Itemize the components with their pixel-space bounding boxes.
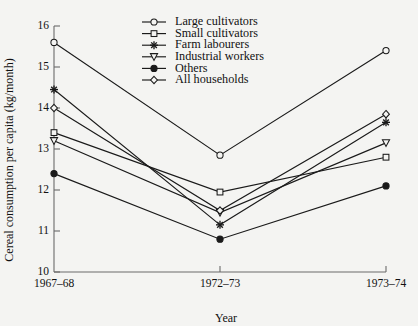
y-tick-label: 15	[38, 60, 50, 72]
data-point-circle-filled	[217, 236, 223, 242]
data-point-square-open	[51, 130, 57, 136]
y-tick-label: 12	[38, 183, 50, 195]
y-tick-label: 11	[38, 224, 49, 236]
cereal-consumption-line-chart: 10111213141516 1967–681972–731973–74 Cer…	[0, 0, 418, 326]
chart-canvas: 10111213141516 1967–681972–731973–74 Cer…	[0, 0, 418, 326]
data-point-star	[50, 86, 58, 94]
y-axis-title: Cereal consumption per capita (kg/month)	[2, 58, 16, 261]
legend-label: All households	[175, 72, 249, 86]
data-point-circle-filled	[151, 65, 157, 71]
data-point-circle-open	[217, 152, 223, 158]
y-tick-label: 10	[38, 265, 50, 277]
data-point-star	[150, 41, 158, 49]
data-point-square-open	[383, 154, 389, 160]
x-tick-label: 1973–74	[366, 277, 407, 289]
y-tick-label: 13	[38, 142, 50, 154]
data-point-circle-open	[51, 39, 57, 45]
y-tick-label: 14	[38, 101, 50, 113]
data-point-circle-filled	[51, 171, 57, 177]
x-tick-label: 1972–73	[200, 277, 241, 289]
data-point-circle-open	[151, 19, 157, 25]
x-tick-label: 1967–68	[34, 277, 75, 289]
x-axis-title: Year	[215, 311, 237, 325]
data-point-square-open	[151, 31, 157, 37]
data-point-square-open	[217, 189, 223, 195]
data-point-circle-filled	[383, 183, 389, 189]
data-point-star	[382, 118, 390, 126]
data-point-circle-open	[383, 48, 389, 54]
data-point-star	[216, 221, 224, 229]
y-tick-label: 16	[38, 19, 50, 31]
